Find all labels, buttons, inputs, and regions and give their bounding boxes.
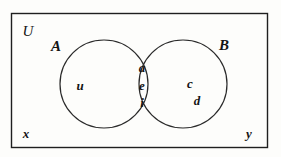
element-outside-sets: y: [246, 127, 252, 140]
venn-diagram: U A B u a e i c d x y: [0, 0, 281, 157]
element-intersection: i: [140, 96, 144, 109]
element-intersection: a: [139, 61, 146, 74]
element-only-b: d: [194, 94, 201, 107]
set-b-label: B: [219, 38, 229, 53]
element-outside-sets: x: [23, 127, 30, 140]
set-a-label: A: [51, 39, 61, 54]
set-b-circle: [139, 40, 227, 128]
element-only-b: c: [187, 77, 193, 90]
element-only-a: u: [76, 79, 83, 92]
universal-set-label: U: [23, 24, 34, 39]
set-a-circle: [60, 40, 148, 128]
element-intersection: e: [139, 79, 145, 92]
